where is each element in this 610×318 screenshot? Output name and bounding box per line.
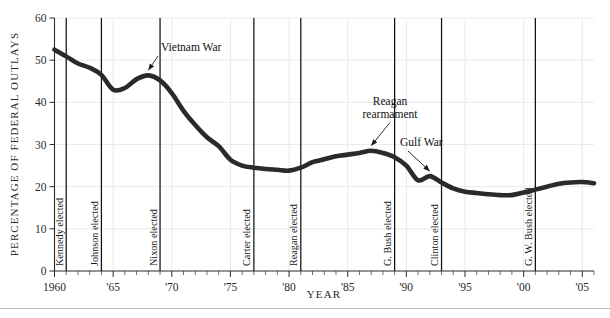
annotation-label: Vietnam War — [161, 41, 222, 53]
event-label: G. W. Bush elected — [523, 188, 534, 266]
x-tick-label: '85 — [341, 281, 355, 293]
event-label: Kennedy elected — [54, 198, 65, 266]
x-tick-label: '00 — [517, 281, 531, 293]
y-tick-label: 0 — [41, 265, 47, 277]
x-tick-label: 1960 — [43, 281, 66, 293]
y-axis-ticks-group: 0102030405060 — [35, 12, 55, 277]
event-label: Carter elected — [241, 209, 252, 266]
line-chart: 0102030405060 1960'65'70'75'80'85'90'95'… — [0, 0, 610, 300]
x-tick-label: '75 — [224, 281, 238, 293]
y-tick-label: 10 — [35, 223, 47, 235]
y-tick-label: 40 — [35, 96, 47, 108]
event-label: G. Bush elected — [382, 201, 393, 266]
y-tick-label: 30 — [35, 139, 47, 151]
x-tick-label: '90 — [400, 281, 414, 293]
event-label: Clinton elected — [429, 204, 440, 266]
x-tick-label: '80 — [282, 281, 296, 293]
event-label: Nixon elected — [148, 209, 159, 266]
figure-container: 0102030405060 1960'65'70'75'80'85'90'95'… — [0, 0, 610, 318]
y-axis-title: PERCENTAGE OF FEDERAL OUTLAYS — [8, 32, 20, 256]
gridlines-group — [55, 18, 595, 271]
bottom-divider — [0, 308, 610, 309]
data-series-group — [55, 50, 595, 196]
x-tick-label: '05 — [575, 281, 589, 293]
data-line-defense-share — [55, 50, 595, 196]
x-tick-label: '65 — [106, 281, 120, 293]
event-label: Johnson elected — [89, 201, 100, 266]
annotation-label-line2: rearmament — [363, 108, 419, 120]
y-tick-label: 60 — [35, 12, 47, 24]
annotation-label: Reagan — [373, 95, 408, 108]
y-tick-label: 20 — [35, 181, 47, 193]
x-tick-label: '95 — [458, 281, 472, 293]
y-tick-label: 50 — [35, 54, 47, 66]
event-label: Reagan elected — [288, 204, 299, 266]
annotation-label: Gulf War — [400, 136, 443, 148]
x-axis-title: YEAR — [307, 288, 341, 300]
annotation-arrowhead — [148, 64, 154, 71]
x-tick-label: '70 — [165, 281, 179, 293]
top-caption-fragment — [0, 0, 610, 11]
